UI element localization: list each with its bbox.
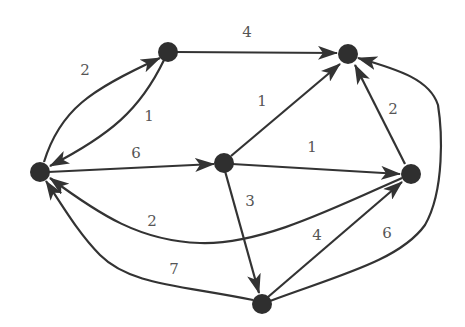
weight-d-f: 3 [245, 192, 255, 210]
weight-e-b: 2 [388, 100, 398, 118]
edge-c-to-a [44, 58, 160, 162]
weighted-directed-graph: 2 1 4 1 6 1 2 2 3 4 7 6 [0, 0, 465, 327]
weight-f-c: 7 [169, 260, 179, 278]
weight-d-e: 1 [307, 138, 317, 156]
node-b [338, 44, 358, 64]
edge-c-to-d [48, 164, 214, 172]
edge-a-to-b [176, 52, 337, 53]
weight-d-b: 1 [257, 92, 267, 110]
weight-a-c: 1 [144, 107, 154, 125]
weight-e-c: 2 [147, 212, 157, 230]
node-f [252, 294, 272, 314]
weight-c-a: 2 [80, 61, 90, 79]
weight-f-b: 6 [382, 224, 392, 242]
edge-d-to-e [232, 164, 400, 174]
node-e [401, 164, 421, 184]
weight-c-d: 6 [131, 144, 141, 162]
node-a [158, 42, 178, 62]
node-d [214, 153, 234, 173]
edge-d-to-b [231, 64, 340, 156]
edge-d-to-f [225, 171, 259, 293]
edge-f-to-c [46, 181, 253, 300]
weight-a-b: 4 [242, 23, 252, 41]
weight-f-e: 4 [312, 226, 322, 244]
node-c [30, 162, 50, 182]
edge-e-to-c [50, 178, 402, 243]
